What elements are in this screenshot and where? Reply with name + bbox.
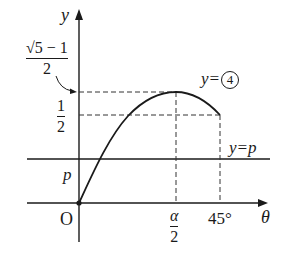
- fraction-bar: [170, 226, 178, 227]
- tick-golden-denominator: 2: [43, 61, 51, 77]
- line-p-label: y=p: [229, 139, 257, 156]
- tick-p: p: [63, 166, 72, 183]
- circled-number-4: 4: [221, 71, 239, 89]
- tick-one-half: 1 2: [57, 98, 65, 135]
- origin-label: O: [60, 210, 73, 228]
- tick-half-denominator: 2: [57, 119, 65, 135]
- y-axis-label: y: [61, 6, 69, 24]
- tick-alpha-half: α 2: [170, 208, 178, 245]
- curve-4: [79, 92, 220, 203]
- pointer-arrow-head-icon: [70, 89, 77, 95]
- pointer-arrow: [56, 76, 72, 91]
- fraction-bar: [26, 58, 68, 59]
- tick-45-degrees: 45°: [208, 210, 232, 227]
- curve-4-label: y=4: [201, 70, 239, 89]
- tick-alpha-numerator: α: [170, 208, 178, 224]
- curve-4-label-prefix: y=: [201, 69, 220, 88]
- theta-axis-arrow-icon: [258, 199, 268, 207]
- theta-axis-label: θ: [261, 208, 270, 226]
- tick-golden-numerator: √5 − 1: [26, 40, 68, 56]
- tick-half-numerator: 1: [57, 98, 65, 114]
- tick-golden-ratio: √5 − 1 2: [26, 40, 68, 77]
- y-axis-arrow-icon: [75, 9, 83, 20]
- tick-alpha-denominator: 2: [170, 229, 178, 245]
- fraction-bar: [57, 116, 65, 117]
- origin-dot: [76, 200, 81, 205]
